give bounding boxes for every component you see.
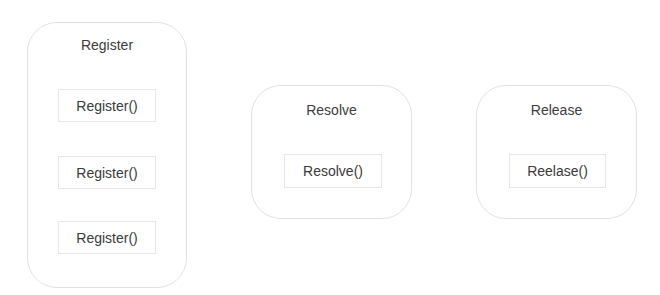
register-method-box-3: Register() — [58, 221, 156, 254]
register-group: Register Register() Register() Register(… — [27, 22, 187, 288]
resolve-group: Resolve Resolve() — [251, 85, 412, 219]
release-group: Release Reelase() — [476, 85, 637, 219]
register-group-title: Register — [28, 37, 186, 53]
resolve-method-box: Resolve() — [284, 154, 382, 188]
register-method-box-1: Register() — [58, 89, 156, 122]
resolve-group-title: Resolve — [252, 102, 411, 118]
release-group-title: Release — [477, 102, 636, 118]
release-method-box: Reelase() — [509, 154, 606, 188]
register-method-box-2: Register() — [58, 156, 156, 189]
